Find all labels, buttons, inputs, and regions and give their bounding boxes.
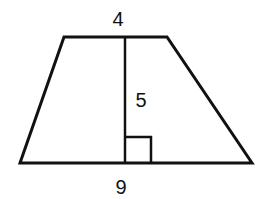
- top-base-label: 4: [112, 8, 123, 30]
- bottom-base-label: 9: [115, 176, 126, 198]
- height-label: 5: [135, 89, 146, 111]
- right-angle-marker: [125, 137, 151, 163]
- trapezoid-diagram: 4 5 9: [0, 0, 263, 199]
